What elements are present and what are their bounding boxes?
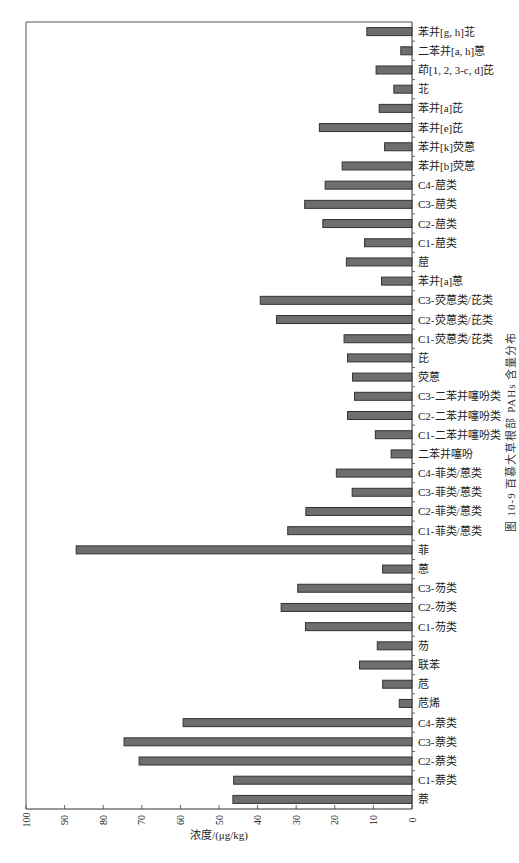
x-tick-label: 90 — [59, 815, 70, 825]
bar — [124, 738, 412, 746]
category-label: 苯并[a]蒽 — [418, 274, 463, 287]
category-label: C4-萘类 — [418, 716, 457, 729]
category-label: 苊 — [418, 677, 429, 690]
bar — [323, 220, 412, 228]
bar — [383, 680, 412, 688]
category-label: C4-菲类/蒽类 — [418, 466, 482, 479]
category-label: C2-䓛类 — [418, 217, 457, 230]
bar — [394, 85, 412, 93]
bars — [76, 28, 412, 804]
x-tick-label: 10 — [368, 815, 379, 825]
bar-chart: 苯并[g, h]苝二苯并[a, h]蒽茚[1, 2, 3-c, d]芘苝苯并[a… — [0, 0, 519, 863]
category-label: C3-䓛类 — [418, 197, 457, 210]
bar — [336, 469, 412, 477]
category-labels: 苯并[g, h]苝二苯并[a, h]蒽茚[1, 2, 3-c, d]芘苝苯并[a… — [418, 25, 501, 806]
category-label: 蒽 — [418, 563, 429, 575]
bar — [277, 316, 412, 324]
category-label: 二苯并噻吩 — [418, 447, 473, 460]
category-label: C3-菲类/蒽类 — [418, 485, 482, 498]
category-label: C4-䓛类 — [418, 178, 457, 191]
x-tick-label: 80 — [98, 815, 109, 825]
x-tick-label: 50 — [214, 815, 225, 825]
bar — [76, 546, 412, 554]
bar — [298, 584, 412, 592]
bar — [365, 239, 412, 247]
x-tick-label: 40 — [252, 815, 263, 825]
category-label: 芴 — [418, 640, 429, 652]
category-label: 荧蒽 — [418, 370, 440, 383]
bar — [234, 776, 412, 784]
x-tick-label: 20 — [329, 815, 340, 825]
category-label: C2-菲类/蒽类 — [418, 504, 482, 517]
bar — [233, 795, 412, 803]
category-label: 苊烯 — [418, 696, 440, 709]
bar — [353, 373, 412, 381]
bar — [383, 565, 412, 573]
category-label: 苯并[b]荧蒽 — [418, 159, 475, 172]
bar — [306, 507, 412, 515]
bar — [346, 258, 412, 266]
x-tick-label: 0 — [407, 818, 418, 823]
bar — [288, 527, 412, 535]
category-label: C3-荧蒽类/芘类 — [418, 293, 493, 306]
category-label: C1-䓛类 — [418, 236, 457, 249]
category-label: C2-芴类 — [418, 600, 457, 613]
bar — [139, 757, 412, 765]
category-label: C3-芴类 — [418, 581, 457, 594]
category-label: 芘 — [418, 352, 429, 364]
category-label: C3-二苯并噻吩类 — [418, 389, 501, 402]
bar — [319, 124, 412, 132]
category-label: C1-菲类/蒽类 — [418, 524, 482, 537]
bar — [354, 392, 412, 400]
axis-ticks: 1009080706050403020100 — [21, 41, 418, 827]
bar — [391, 450, 412, 458]
bar — [342, 162, 412, 170]
figure-caption: 图 10-9 百慕大草根部 PAHs 含量分布 — [504, 332, 517, 532]
category-label: 苯并[e]芘 — [418, 121, 463, 134]
bar — [382, 277, 412, 285]
bar — [352, 488, 412, 496]
category-label: 茚[1, 2, 3-c, d]芘 — [418, 63, 494, 76]
bar — [377, 642, 412, 650]
category-label: 联苯 — [418, 658, 440, 671]
bar — [305, 200, 412, 208]
category-label: C2-萘类 — [418, 754, 457, 767]
category-label: C2-二苯并噻吩类 — [418, 409, 501, 422]
category-label: 二苯并[a, h]蒽 — [418, 44, 485, 57]
category-label: 萘 — [418, 793, 429, 805]
bar — [367, 28, 412, 36]
x-tick-label: 70 — [136, 815, 147, 825]
bar — [401, 47, 412, 55]
bar — [281, 603, 412, 611]
category-label: C1-芴类 — [418, 620, 457, 633]
category-label: C1-萘类 — [418, 773, 457, 786]
category-label: C2-荧蒽类/芘类 — [418, 313, 493, 326]
category-label: C1-二苯并噻吩类 — [418, 428, 501, 441]
category-label: 䓛 — [418, 256, 429, 268]
bar — [348, 412, 412, 420]
category-label: 苯并[k]荧蒽 — [418, 140, 475, 153]
category-label: 苯并[g, h]苝 — [418, 25, 475, 38]
category-label: 苝 — [418, 83, 429, 95]
x-axis-title: 浓度/(μg/kg) — [190, 828, 248, 842]
bar — [183, 719, 412, 727]
bar — [348, 354, 412, 362]
bar — [305, 623, 412, 631]
bar — [360, 661, 412, 669]
x-tick-label: 100 — [21, 813, 32, 828]
category-label: C1-荧蒽类/芘类 — [418, 332, 493, 345]
category-label: 菲 — [418, 544, 429, 556]
bar — [399, 699, 412, 707]
category-label: 苯并[a]芘 — [418, 101, 463, 114]
bar — [379, 104, 412, 112]
x-tick-label: 30 — [291, 815, 302, 825]
bar — [376, 66, 412, 74]
bar — [260, 296, 412, 304]
bar — [375, 431, 412, 439]
x-tick-label: 60 — [175, 815, 186, 825]
bar — [385, 143, 412, 151]
bar — [325, 181, 412, 189]
category-label: C3-萘类 — [418, 735, 457, 748]
bar — [344, 335, 412, 343]
